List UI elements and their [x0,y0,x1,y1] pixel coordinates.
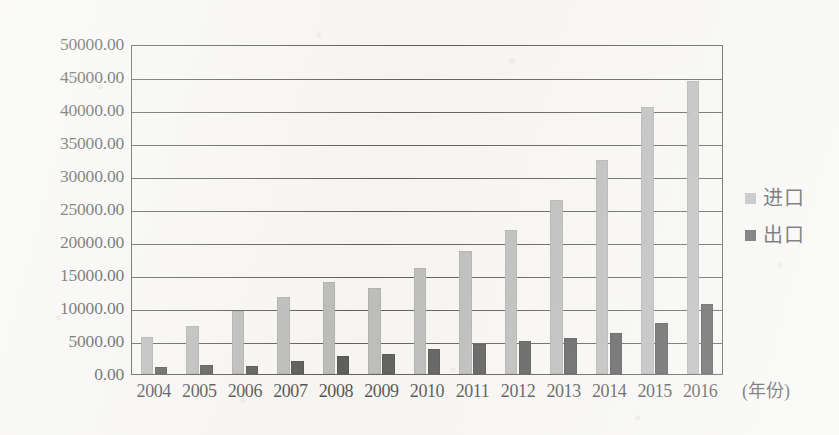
bar-group [223,46,269,374]
x-tick-label: 2010 [410,382,444,400]
x-tick-label: 2015 [637,382,671,400]
y-tick-label: 15000.00 [0,267,124,285]
bar-export[interactable] [473,344,486,374]
bar-import[interactable] [368,288,381,374]
bar-group [178,46,224,374]
bar-import[interactable] [414,268,427,374]
legend-swatch-export-icon [745,230,756,241]
y-tick-label: 35000.00 [0,135,124,153]
bar-export[interactable] [291,361,304,374]
bar-export[interactable] [382,354,395,374]
y-tick-label: 30000.00 [0,168,124,186]
x-tick-label: 2009 [364,382,398,400]
legend-item-export[interactable]: 出口 [745,225,839,245]
bar-import[interactable] [232,311,245,374]
x-tick-label: 2013 [546,382,580,400]
x-tick-label: 2006 [228,382,262,400]
bar-group [587,46,633,374]
bar-import[interactable] [687,81,700,374]
y-tick-label: 45000.00 [0,69,124,87]
bar-group [314,46,360,374]
bar-group [132,46,178,374]
plot-area [131,45,723,375]
y-tick-label: 25000.00 [0,201,124,219]
bar-group [269,46,315,374]
bar-export[interactable] [155,367,168,374]
bar-group [405,46,451,374]
bar-import[interactable] [459,251,472,374]
bar-export[interactable] [655,323,668,374]
bar-import[interactable] [141,337,154,374]
bar-import[interactable] [277,297,290,374]
bar-export[interactable] [337,356,350,374]
x-tick-label: 2007 [273,382,307,400]
bar-export[interactable] [428,349,441,374]
y-axis: 50000.0045000.0040000.0035000.0030000.00… [0,0,124,435]
y-tick-label: 5000.00 [0,333,124,351]
bar-group [496,46,542,374]
x-tick-label: 2016 [683,382,717,400]
bar-import[interactable] [505,230,518,374]
bar-export[interactable] [200,365,213,374]
legend-item-import[interactable]: 进口 [745,188,839,208]
y-tick-label: 20000.00 [0,234,124,252]
bar-import[interactable] [641,107,654,374]
bar-import[interactable] [323,282,336,374]
bar-group [451,46,497,374]
y-tick-label: 0.00 [0,366,124,384]
bar-import[interactable] [550,200,563,374]
bar-import[interactable] [186,326,199,374]
chart-page: 50000.0045000.0040000.0035000.0030000.00… [0,0,839,435]
bar-export[interactable] [246,366,259,374]
bar-group [360,46,406,374]
x-axis-unit-label: (年份) [742,382,790,400]
bar-export[interactable] [519,341,532,374]
legend-label-import: 进口 [763,188,804,208]
bar-export[interactable] [701,304,714,374]
bar-group [678,46,724,374]
bars-layer [132,46,722,374]
bar-group [542,46,588,374]
legend-label-export: 出口 [763,225,804,245]
chart-legend: 进口 出口 [745,188,839,262]
x-tick-label: 2012 [501,382,535,400]
x-tick-label: 2005 [182,382,216,400]
y-tick-label: 10000.00 [0,300,124,318]
bar-group [633,46,679,374]
x-tick-label: 2004 [137,382,171,400]
bar-export[interactable] [564,338,577,374]
y-tick-label: 40000.00 [0,102,124,120]
bar-export[interactable] [610,333,623,374]
bar-import[interactable] [596,160,609,375]
x-tick-label: 2014 [592,382,626,400]
x-axis: 2004200520062007200820092010201120122013… [131,382,723,408]
legend-swatch-import-icon [745,193,756,204]
y-tick-label: 50000.00 [0,36,124,54]
x-tick-label: 2008 [319,382,353,400]
x-tick-label: 2011 [456,382,490,400]
